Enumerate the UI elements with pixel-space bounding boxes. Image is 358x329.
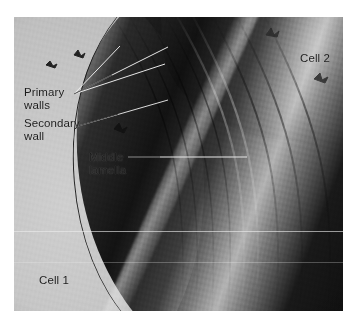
scan-line-lower [14,262,343,263]
scan-line-upper [14,231,343,232]
label-cell-1: Cell 1 [39,274,69,287]
figure-electron-micrograph: Primary walls Secondary wall Middle lame… [0,0,358,329]
label-primary-walls: Primary walls [24,86,64,111]
label-middle-lamella: Middle lamella [89,151,126,176]
label-secondary-wall: Secondary wall [24,117,80,142]
label-cell-2: Cell 2 [300,52,330,65]
micrograph-plate [14,17,343,311]
vignette-overlay [14,17,343,311]
